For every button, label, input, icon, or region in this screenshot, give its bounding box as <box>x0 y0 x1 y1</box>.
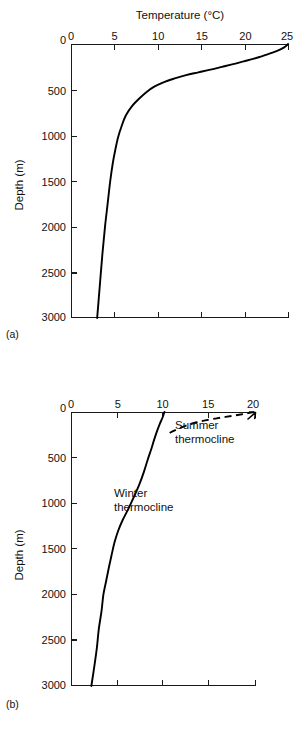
x-tick-label-20: 20 <box>239 30 251 42</box>
temperature-depth-figure: Temperature (°C) 0 5 10 15 20 25 <box>0 0 301 731</box>
panel-b-svg: 0 5 10 15 20 0 <box>0 370 301 731</box>
x-tick-label-5: 5 <box>112 30 118 42</box>
x-tick-label-b-20: 20 <box>247 398 259 410</box>
y-tick-label-b-2500: 2500 <box>42 634 66 646</box>
summer-thermocline-label-line1: Summer <box>175 419 219 431</box>
winter-thermocline-label-line1: Winter <box>114 487 147 499</box>
x-tick-label-25: 25 <box>281 30 293 42</box>
y-tick-label-a-1500: 1500 <box>42 176 66 188</box>
y-tick-label-b-2000: 2000 <box>42 588 66 600</box>
y-tick-label-a-1000: 1000 <box>42 130 66 142</box>
x-tick-label-15: 15 <box>196 30 208 42</box>
y-tick-label-a-3000: 3000 <box>42 311 66 323</box>
y-tick-label-b-1500: 1500 <box>42 543 66 555</box>
summer-thermocline-label-line2: thermocline <box>175 433 234 445</box>
y-tick-label-b-0: 0 <box>60 402 66 414</box>
x-tick-label-b-10: 10 <box>156 398 168 410</box>
winter-thermocline-curve <box>91 412 164 686</box>
y-tick-label-a-2500: 2500 <box>42 267 66 279</box>
winter-thermocline-label-line2: thermocline <box>114 501 173 513</box>
panel-label-a: (a) <box>6 328 19 340</box>
temperature-profile-curve-a <box>97 44 288 318</box>
y-axis-title-a: Depth (m) <box>13 159 25 210</box>
y-axis-title-b: Depth (m) <box>13 529 25 580</box>
x-tick-label-b-15: 15 <box>202 398 214 410</box>
y-tick-label-a-2000: 2000 <box>42 221 66 233</box>
chart-panel-b: 0 5 10 15 20 0 <box>0 370 301 731</box>
chart-panel-a: Temperature (°C) 0 5 10 15 20 25 <box>0 0 301 370</box>
panel-a-svg: Temperature (°C) 0 5 10 15 20 25 <box>0 0 301 370</box>
y-tick-label-a-500: 500 <box>48 85 66 97</box>
x-tick-label-b-5: 5 <box>115 398 121 410</box>
x-tick-label-b-0: 0 <box>68 398 74 410</box>
x-tick-label-0: 0 <box>68 30 74 42</box>
panel-label-b: (b) <box>6 698 19 710</box>
y-tick-label-a-0: 0 <box>60 34 66 46</box>
y-tick-label-b-3000: 3000 <box>42 679 66 691</box>
y-tick-label-b-1000: 1000 <box>42 497 66 509</box>
x-axis-title-a: Temperature (°C) <box>136 9 224 21</box>
x-tick-label-10: 10 <box>152 30 164 42</box>
y-tick-label-b-500: 500 <box>48 452 66 464</box>
